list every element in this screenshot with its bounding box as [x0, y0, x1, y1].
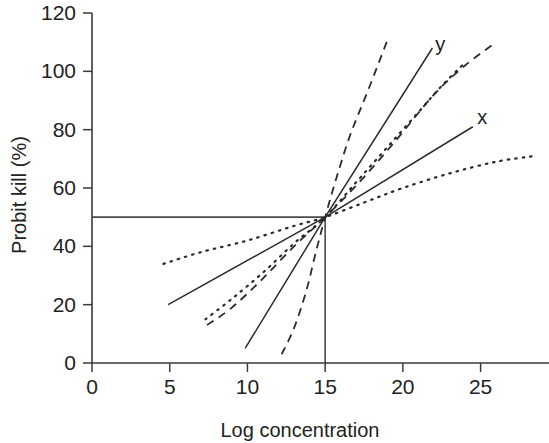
- x-tick-label: 15: [313, 375, 336, 398]
- x-tick-label: 25: [469, 375, 492, 398]
- chart-canvas: 0204060801001200510152025 yx Probit kill…: [0, 0, 549, 443]
- curve-annotations: yx: [435, 33, 487, 128]
- axis-frame: [92, 13, 549, 363]
- x-tick-label: 10: [236, 375, 259, 398]
- y-tick-label: 0: [64, 351, 76, 374]
- y-tick-label: 80: [53, 118, 76, 141]
- reference-lines: [92, 217, 325, 363]
- x-tick-label: 5: [164, 375, 176, 398]
- curve-y: [245, 48, 432, 348]
- x-tick-label: 20: [391, 375, 414, 398]
- x-tick-label: 0: [86, 375, 98, 398]
- y-tick-label: 40: [53, 234, 76, 257]
- y-tick-label: 60: [53, 176, 76, 199]
- curve-x: [168, 127, 473, 305]
- curve-shallow-sigmoid-dotted: [164, 156, 536, 264]
- curve-label-x: x: [477, 106, 487, 128]
- curve-broad-sigmoid-dashed: [207, 42, 496, 325]
- curve-medium-sigmoid-dotted: [205, 63, 465, 320]
- curve-steep-sigmoid-dashed: [282, 36, 389, 354]
- curve-label-y: y: [435, 33, 445, 55]
- probit-kill-chart: 0204060801001200510152025 yx Probit kill…: [0, 0, 549, 443]
- x-axis-title: Log concentration: [220, 419, 379, 441]
- y-tick-label: 120: [41, 1, 76, 24]
- axes: [92, 13, 549, 363]
- data-curves: [164, 36, 536, 354]
- y-axis-title: Probit kill (%): [8, 136, 30, 254]
- y-tick-label: 20: [53, 293, 76, 316]
- y-tick-label: 100: [41, 59, 76, 82]
